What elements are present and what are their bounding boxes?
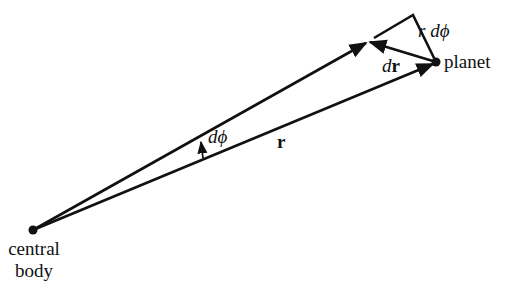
r-dphi-r: r: [418, 20, 425, 41]
r-dphi-d: d: [430, 20, 440, 41]
planet-label: planet: [444, 51, 490, 73]
dphi-phi: ϕ: [218, 126, 228, 147]
dr-vector-arrow: [370, 42, 436, 62]
planet-dot: [432, 58, 441, 67]
central-body-label-line1: central: [4, 238, 64, 260]
dphi-label: dϕ: [208, 126, 227, 148]
dr-label: dr: [382, 55, 400, 77]
dphi-angle-arrow: [201, 142, 203, 158]
dr-r: r: [392, 55, 400, 76]
r-dphi-phi: ϕ: [440, 20, 450, 41]
central-body-label-line2: body: [4, 260, 64, 282]
dphi-d: d: [208, 126, 218, 147]
r-dphi-label: r dϕ: [418, 20, 450, 42]
dr-d: d: [382, 55, 392, 76]
r-plus-dr-vector-arrow: [33, 43, 366, 230]
r-vector-arrow: [33, 64, 433, 230]
central-body-label: central body: [4, 238, 64, 282]
r-vector-label: r: [277, 131, 285, 153]
central-body-dot: [29, 226, 38, 235]
orbit-diagram: [0, 0, 507, 292]
